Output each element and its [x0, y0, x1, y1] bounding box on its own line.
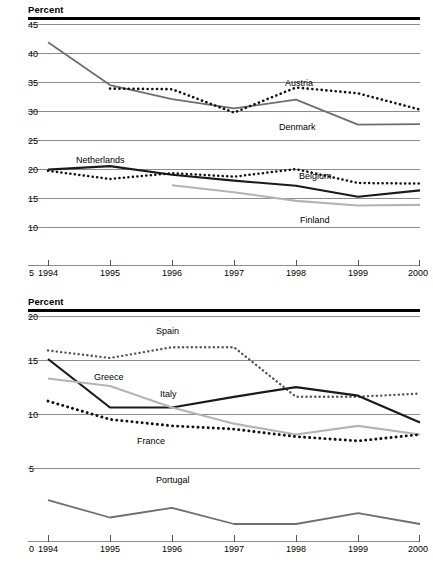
top-ytick-40: 40 [28, 49, 38, 59]
series-label-greece: Greece [94, 372, 124, 382]
bottom-xtick-1995: 1995 [90, 544, 130, 554]
chart-panel-top: Percent [0, 0, 426, 292]
series-label-denmark: Denmark [279, 122, 316, 132]
series-label-netherlands: Netherlands [76, 155, 125, 165]
top-xtick-1999: 1999 [338, 268, 378, 278]
top-ytick-20: 20 [28, 165, 38, 175]
top-chart-svg [0, 0, 426, 292]
top-xtick-1994: 1994 [28, 268, 68, 278]
top-xtick-2000: 2000 [398, 268, 433, 278]
top-ytick-30: 30 [28, 107, 38, 117]
series-line-france [48, 401, 420, 441]
series-label-spain: Spain [156, 326, 179, 336]
bottom-xtick-1996: 1996 [152, 544, 192, 554]
bottom-xtick-1998: 1998 [276, 544, 316, 554]
series-line-finland [172, 185, 420, 205]
series-line-austria [110, 88, 420, 113]
top-xtick-1995: 1995 [90, 268, 130, 278]
bottom-xtick-1994: 1994 [28, 544, 68, 554]
bottom-ytick-20: 20 [28, 312, 38, 322]
series-label-france: France [137, 436, 165, 446]
top-ytick-25: 25 [28, 136, 38, 146]
series-label-finland: Finland [300, 215, 330, 225]
bottom-chart-svg [0, 292, 426, 569]
bottom-xtick-2000: 2000 [398, 544, 433, 554]
series-label-portugal: Portugal [156, 475, 190, 485]
top-ytick-35: 35 [28, 78, 38, 88]
chart-panel-bottom: Percent [0, 292, 426, 569]
bottom-ytick-15: 15 [28, 356, 38, 366]
bottom-xtick-1999: 1999 [338, 544, 378, 554]
series-label-belgium: Belgium [299, 171, 332, 181]
top-ytick-45: 45 [28, 20, 38, 30]
bottom-ytick-5: 5 [29, 464, 34, 474]
series-label-austria: Austria [285, 78, 313, 88]
top-xtick-1998: 1998 [276, 268, 316, 278]
top-ytick-15: 15 [28, 194, 38, 204]
series-line-portugal [48, 500, 420, 524]
bottom-xtick-marks [49, 535, 420, 542]
bottom-xtick-1997: 1997 [214, 544, 254, 554]
series-label-italy: Italy [160, 389, 177, 399]
top-xtick-1997: 1997 [214, 268, 254, 278]
top-ytick-10: 10 [28, 223, 38, 233]
top-gridlines [28, 25, 420, 266]
series-line-greece [48, 379, 420, 435]
top-xtick-1996: 1996 [152, 268, 192, 278]
bottom-ytick-10: 10 [28, 410, 38, 420]
series-line-italy [48, 359, 420, 423]
